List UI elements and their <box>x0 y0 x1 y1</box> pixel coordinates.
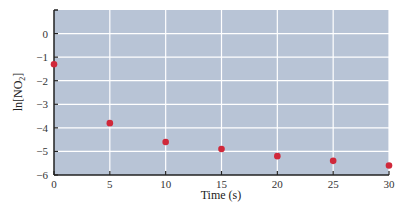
x-tick-label: 5 <box>107 178 113 190</box>
data-point <box>107 120 114 127</box>
y-tick-label: −6 <box>36 169 48 181</box>
x-tick-label: 10 <box>160 178 172 190</box>
y-tick-label: −1 <box>36 51 48 63</box>
y-tick-label: −2 <box>36 75 48 87</box>
y-tick-label: −5 <box>36 145 48 157</box>
x-tick-label: 0 <box>51 178 57 190</box>
y-tick-label: 0 <box>43 28 49 40</box>
data-point <box>274 153 281 160</box>
data-point <box>218 146 225 153</box>
data-point <box>330 158 337 165</box>
y-axis-title-end: ] <box>11 73 25 77</box>
y-axis-title-main: ln[NO <box>11 80 25 111</box>
x-tick-label: 30 <box>384 178 396 190</box>
data-point <box>162 139 169 146</box>
data-point <box>386 162 393 169</box>
y-tick-labels: 0−1−2−3−4−5−6 <box>36 28 48 181</box>
x-tick-label: 20 <box>272 178 284 190</box>
x-axis-title: Time (s) <box>201 188 242 202</box>
data-point <box>51 61 58 68</box>
y-axis-title: ln[NO2] <box>11 73 27 112</box>
scatter-chart: 0−1−2−3−4−5−6 051015202530 Time (s) ln[N… <box>0 0 420 211</box>
y-tick-label: −3 <box>36 98 48 110</box>
y-tick-label: −4 <box>36 122 48 134</box>
x-tick-label: 25 <box>328 178 340 190</box>
